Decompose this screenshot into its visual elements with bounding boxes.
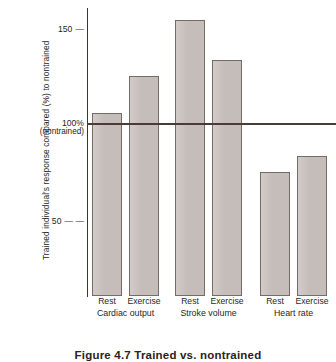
plot-area	[87, 8, 336, 296]
x-axis-labels: RestExerciseCardiac outputRestExerciseSt…	[87, 297, 336, 327]
bar-heart-rate-exercise	[297, 156, 327, 296]
y-tick-100-sublabel: (nontrained)	[0, 128, 84, 137]
group-label-heart-rate: Heart rate	[246, 309, 336, 318]
y-tick-50-dash: — —	[64, 217, 84, 226]
bar-cardiac-output-rest	[92, 113, 122, 296]
y-tick-150-label: 150	[58, 24, 72, 34]
y-tick-50: 50— —	[0, 217, 84, 226]
bar-cardiac-output-exercise	[129, 76, 159, 296]
figure-container: Trained individual's response compared (…	[0, 0, 336, 362]
y-tick-100: 100%(nontrained)	[0, 119, 84, 137]
bar-stroke-volume-exercise	[212, 60, 242, 296]
x-label-exercise-2: Exercise	[203, 297, 251, 306]
reference-line-100-percent	[87, 123, 336, 125]
x-label-exercise-1: Exercise	[120, 297, 168, 306]
group-label-cardiac-output: Cardiac output	[78, 309, 173, 318]
y-tick-50-label: 50	[52, 216, 62, 226]
bar-heart-rate-rest	[260, 172, 290, 296]
figure-caption: Figure 4.7 Trained vs. nontrained	[0, 349, 336, 362]
group-label-stroke-volume: Stroke volume	[161, 309, 256, 318]
y-tick-150: 150—	[0, 25, 84, 34]
x-label-exercise-3: Exercise	[288, 297, 336, 306]
y-axis-title: Trained individual's response compared (…	[42, 10, 50, 290]
bar-stroke-volume-rest	[175, 20, 205, 296]
y-tick-150-dash: —	[75, 25, 84, 34]
